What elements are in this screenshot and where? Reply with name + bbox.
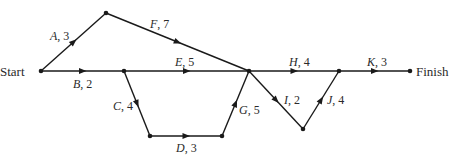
arrow-icon <box>79 68 87 74</box>
activity-label-e: E, 5 <box>175 56 194 68</box>
node-n4 <box>220 134 225 139</box>
node-n7 <box>337 69 342 74</box>
node-n6 <box>301 127 306 132</box>
node-finish <box>408 69 413 74</box>
activity-label-c: C, 4 <box>113 100 133 112</box>
arrow-icon <box>173 38 182 46</box>
activity-label-j: J, 4 <box>327 94 344 106</box>
node-start <box>39 69 44 74</box>
node-n1 <box>104 11 109 16</box>
arrow-icon <box>133 99 141 108</box>
activity-label-g: G, 5 <box>239 104 260 116</box>
activity-label-k: K, 3 <box>367 56 387 68</box>
network-diagram <box>0 0 453 162</box>
node-n5 <box>247 69 252 74</box>
activity-label-i: I, 2 <box>284 94 300 106</box>
activity-label-b: B, 2 <box>73 78 92 90</box>
node-n2 <box>122 69 127 74</box>
node-n3 <box>148 134 153 139</box>
activity-label-d: D, 3 <box>176 142 197 154</box>
activity-label-a: A, 3 <box>50 30 69 42</box>
finish-label: Finish <box>416 65 449 78</box>
arrow-icon <box>317 95 326 105</box>
activity-label-h: H, 4 <box>289 56 310 68</box>
activity-label-f: F, 7 <box>150 18 169 30</box>
start-label: Start <box>0 65 25 78</box>
arrow-icon <box>183 133 191 139</box>
